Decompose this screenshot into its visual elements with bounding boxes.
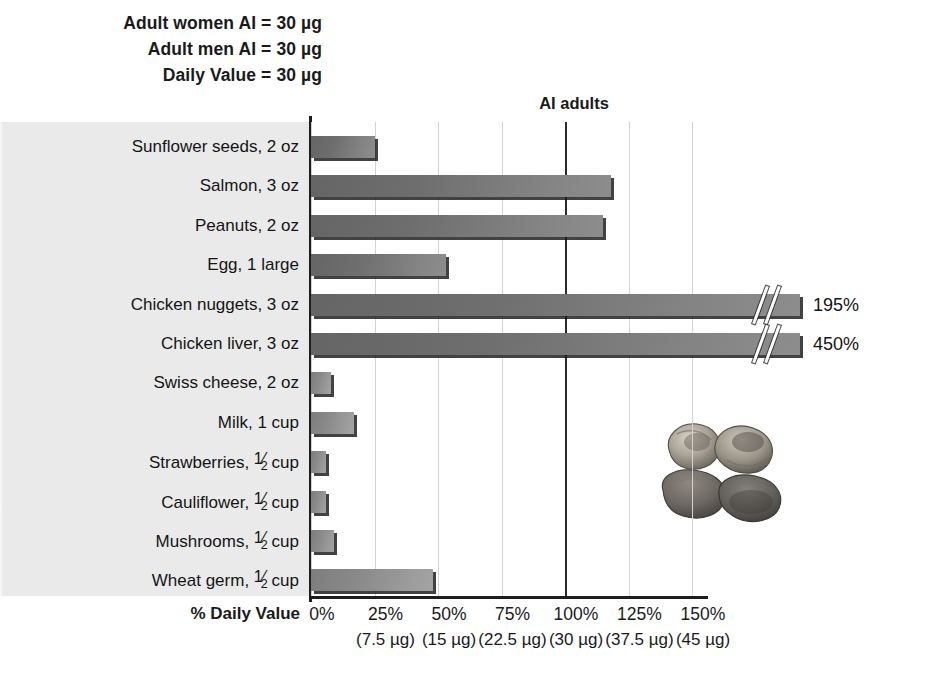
category-label: Chicken liver, 3 oz xyxy=(161,335,299,353)
category-label: Strawberries, 1⁄2 cup xyxy=(149,453,299,472)
bar-value-label: 195% xyxy=(813,294,859,316)
category-label: Peanuts, 2 oz xyxy=(195,217,299,235)
half-fraction-glyph: 1⁄2 xyxy=(254,453,267,470)
category-label: Wheat germ, 1⁄2 cup xyxy=(152,571,299,590)
x-axis-label-group: % Daily Value 0%25%(7.5 µg)50%(15 µg)75%… xyxy=(0,602,951,672)
plot-area: AI adults xyxy=(311,122,951,596)
bar-1 xyxy=(311,136,375,158)
x-axis-title: % Daily Value xyxy=(0,604,300,624)
bar-value-label: 450% xyxy=(813,333,859,355)
gridline-125pct xyxy=(629,122,630,596)
peanuts-photo xyxy=(653,416,793,544)
category-label: Sunflower seeds, 2 oz xyxy=(132,138,299,156)
header-line-dv: Daily Value = 30 µg xyxy=(0,62,322,88)
category-label: Salmon, 3 oz xyxy=(200,177,299,195)
category-label-panel: Sunflower seeds, 2 ozSalmon, 3 ozPeanuts… xyxy=(0,122,311,596)
bar-12 xyxy=(311,569,433,591)
reference-intake-header: Adult women AI = 30 µg Adult men AI = 30… xyxy=(0,10,322,88)
gridline-150pct xyxy=(692,122,693,596)
bar-10 xyxy=(311,491,326,513)
bar-2 xyxy=(311,175,611,197)
bar-5 xyxy=(311,294,800,316)
category-label: Swiss cheese, 2 oz xyxy=(153,374,299,392)
category-label: Egg, 1 large xyxy=(207,256,299,274)
category-label: Chicken nuggets, 3 oz xyxy=(131,296,299,314)
half-fraction-glyph: 1⁄2 xyxy=(254,532,267,549)
chart-canvas: Adult women AI = 30 µg Adult men AI = 30… xyxy=(0,0,951,677)
bar-3 xyxy=(311,215,603,237)
category-label: Mushrooms, 1⁄2 cup xyxy=(156,532,299,551)
bar-6 xyxy=(311,333,800,355)
header-line-men: Adult men AI = 30 µg xyxy=(0,36,322,62)
bar-7 xyxy=(311,372,331,394)
bar-8 xyxy=(311,412,354,434)
category-label: Milk, 1 cup xyxy=(218,414,299,432)
ai-adults-reference-label: AI adults xyxy=(514,94,634,113)
half-fraction-glyph: 1⁄2 xyxy=(254,493,267,510)
bar-4 xyxy=(311,254,446,276)
x-axis-line xyxy=(309,596,708,599)
x-tick-label-150pct: 150% xyxy=(648,604,758,625)
category-label: Cauliflower, 1⁄2 cup xyxy=(161,493,299,512)
x-tick-sublabel-150pct: (45 µg) xyxy=(648,630,758,650)
bar-9 xyxy=(311,451,326,473)
half-fraction-glyph: 1⁄2 xyxy=(254,571,267,588)
header-line-women: Adult women AI = 30 µg xyxy=(0,10,322,36)
bar-11 xyxy=(311,530,334,552)
